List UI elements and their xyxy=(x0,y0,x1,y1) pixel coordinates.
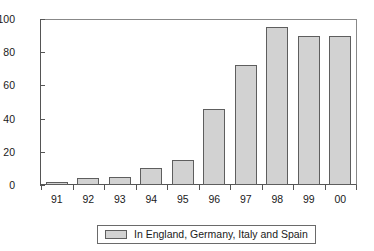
x-tick-mark xyxy=(136,185,137,190)
legend-swatch-icon xyxy=(105,230,127,239)
x-tick-label: 91 xyxy=(51,194,63,205)
bar-92 xyxy=(77,178,99,185)
y-tick-label: 40 xyxy=(3,113,15,124)
x-tick-mark xyxy=(199,185,200,190)
x-axis: 91929394959697989900 xyxy=(41,185,356,215)
x-tick-label: 00 xyxy=(334,194,346,205)
x-tick-label: 98 xyxy=(271,194,283,205)
y-tick-label: 80 xyxy=(3,47,15,58)
y-axis: 020406080100 xyxy=(0,0,40,251)
bar-95 xyxy=(172,160,194,185)
bar-97 xyxy=(235,65,257,185)
x-tick-label: 93 xyxy=(114,194,126,205)
bar-96 xyxy=(203,109,225,185)
y-tick-label: 100 xyxy=(0,14,15,25)
x-tick-mark xyxy=(167,185,168,190)
x-tick-label: 94 xyxy=(145,194,157,205)
legend-label: In England, Germany, Italy and Spain xyxy=(134,229,308,240)
x-tick-mark xyxy=(293,185,294,190)
bar-chart: 020406080100 91929394959697989900 In Eng… xyxy=(0,0,374,251)
bars-layer xyxy=(41,19,356,185)
x-tick-mark xyxy=(41,185,42,190)
x-tick-mark xyxy=(73,185,74,190)
x-tick-label: 96 xyxy=(208,194,220,205)
bar-94 xyxy=(140,168,162,185)
bar-98 xyxy=(266,27,288,185)
bar-93 xyxy=(109,177,131,185)
chart-legend: In England, Germany, Italy and Spain xyxy=(97,225,316,244)
x-tick-label: 97 xyxy=(240,194,252,205)
bar-99 xyxy=(298,36,320,185)
x-tick-mark xyxy=(262,185,263,190)
y-tick-label: 20 xyxy=(3,147,15,158)
x-tick-label: 99 xyxy=(303,194,315,205)
x-tick-label: 95 xyxy=(177,194,189,205)
bar-00 xyxy=(329,36,351,185)
x-tick-mark xyxy=(356,185,357,190)
x-tick-mark xyxy=(230,185,231,190)
x-tick-mark xyxy=(104,185,105,190)
x-tick-label: 92 xyxy=(82,194,94,205)
y-tick-label: 60 xyxy=(3,80,15,91)
y-tick-label: 0 xyxy=(9,180,15,191)
x-tick-mark xyxy=(325,185,326,190)
